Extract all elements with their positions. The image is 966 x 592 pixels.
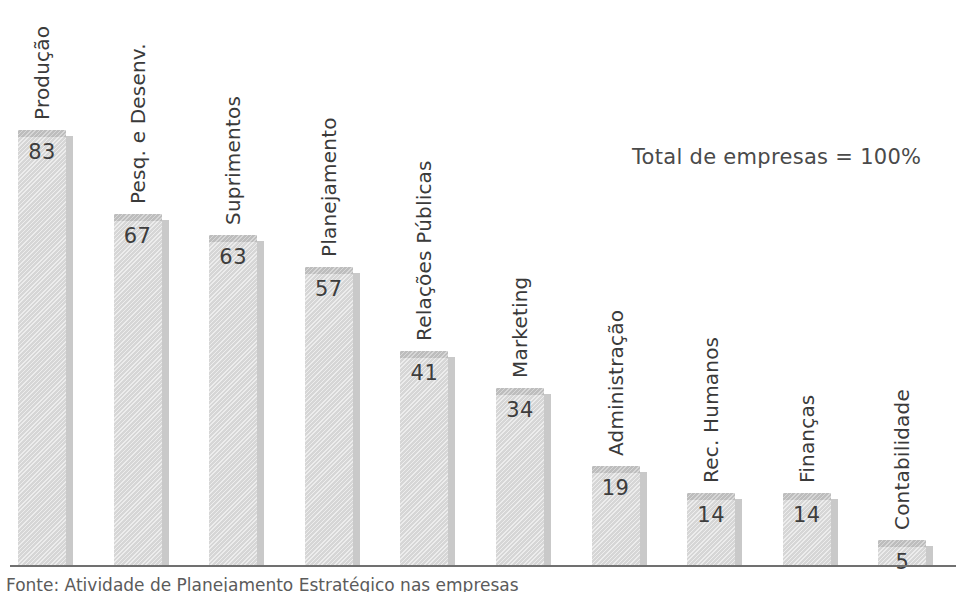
bar-group: 57Planejamento [305, 1, 353, 566]
bar-value-label: 83 [18, 140, 66, 164]
bar-group: 5Contabilidade [878, 1, 926, 566]
bar-shadow [735, 499, 742, 567]
bar-chart: 83Produção67Pesq. e Desenv.63Suprimentos… [0, 0, 966, 592]
bar-shadow [66, 136, 73, 566]
bar-category-label: Produção [30, 26, 54, 120]
bar-category-label: Suprimentos [221, 96, 245, 225]
bar-group: 63Suprimentos [209, 1, 257, 566]
bar-value-label: 14 [783, 503, 831, 527]
bar-shadow [257, 241, 264, 566]
bar-group: 41Relações Públicas [400, 1, 448, 566]
bar-category-label: Marketing [508, 276, 532, 377]
bar-category-label: Rec. Humanos [699, 336, 723, 482]
bar-value-label: 63 [209, 245, 257, 269]
bar-value-label: 5 [878, 550, 926, 574]
source-note: Fonte: Atividade de Planejamento Estraté… [6, 575, 906, 592]
chart-annotation: Total de empresas = 100% [632, 145, 921, 169]
bar-value-label: 57 [305, 277, 353, 301]
bar-group: 14Rec. Humanos [687, 1, 735, 566]
bar[interactable] [305, 267, 353, 566]
bar-shadow [353, 273, 360, 566]
bar-shadow [162, 220, 169, 566]
bar-category-label: Pesq. e Desenv. [126, 43, 150, 204]
bar-value-label: 14 [687, 503, 735, 527]
bar-shadow [640, 472, 647, 566]
bar[interactable] [209, 235, 257, 566]
bar-value-label: 41 [400, 361, 448, 385]
bar-category-label: Relações Públicas [412, 160, 436, 341]
bar-group: 67Pesq. e Desenv. [114, 1, 162, 566]
bar-shadow [448, 357, 455, 566]
bar-group: 14Finanças [783, 1, 831, 566]
bar-category-label: Planejamento [317, 117, 341, 257]
plot-area: 83Produção67Pesq. e Desenv.63Suprimentos… [0, 0, 966, 566]
bar-shadow [831, 499, 838, 567]
bar-shadow [544, 394, 551, 567]
x-axis-line [10, 565, 956, 567]
bar-group: 34Marketing [496, 1, 544, 566]
bar-value-label: 19 [592, 476, 640, 500]
bar-shadow [926, 546, 933, 566]
bar-group: 83Produção [18, 1, 66, 566]
bar-category-label: Administração [604, 310, 628, 456]
bar-group: 19Administração [592, 1, 640, 566]
bar-category-label: Contabilidade [890, 389, 914, 530]
bar[interactable] [114, 214, 162, 566]
bar[interactable] [18, 130, 66, 566]
bar-category-label: Finanças [795, 394, 819, 483]
bar-value-label: 34 [496, 398, 544, 422]
bar-value-label: 67 [114, 224, 162, 248]
